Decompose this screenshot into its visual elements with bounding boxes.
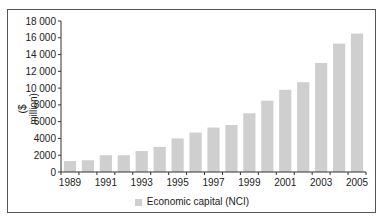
x-tick-label: 2003 (310, 177, 333, 188)
y-tick-label: 18 000 (25, 16, 56, 27)
legend-swatch (135, 199, 142, 206)
y-tick-label: 12 000 (25, 66, 56, 77)
x-tick-label: 2001 (274, 177, 297, 188)
x-tick-label: 2005 (346, 177, 369, 188)
y-tick-label: 16 000 (25, 32, 56, 43)
y-tick-label: 0 (50, 167, 56, 178)
bar (64, 161, 76, 172)
x-tick-label: 1995 (166, 177, 189, 188)
bar (225, 125, 237, 172)
x-tick-label: 1999 (238, 177, 261, 188)
bar (136, 151, 148, 172)
bar (243, 113, 255, 172)
legend-label: Economic capital (NCI) (147, 196, 249, 207)
x-tick-label: 1989 (59, 177, 82, 188)
bar (154, 147, 166, 172)
bar (207, 128, 219, 172)
y-tick-label: 14 000 (25, 49, 56, 60)
x-tick-label: 1997 (202, 177, 225, 188)
bar (82, 160, 94, 172)
bar (172, 138, 184, 172)
bar (118, 155, 130, 172)
y-tick-label: 2000 (34, 150, 57, 161)
bar (189, 133, 201, 172)
legend: Economic capital (NCI) (0, 196, 384, 207)
x-tick-label: 1991 (95, 177, 118, 188)
bar-chart: 0200040006000800010 00012 00014 00016 00… (0, 0, 384, 224)
bar (315, 63, 327, 172)
x-tick-label: 1993 (131, 177, 154, 188)
bar (333, 44, 345, 172)
bar (100, 155, 112, 172)
y-axis-label: ($ million) (17, 89, 39, 129)
bar (261, 101, 273, 172)
bar (351, 34, 363, 172)
bar (279, 90, 291, 172)
bar (297, 82, 309, 172)
y-tick-label: 4000 (34, 133, 57, 144)
